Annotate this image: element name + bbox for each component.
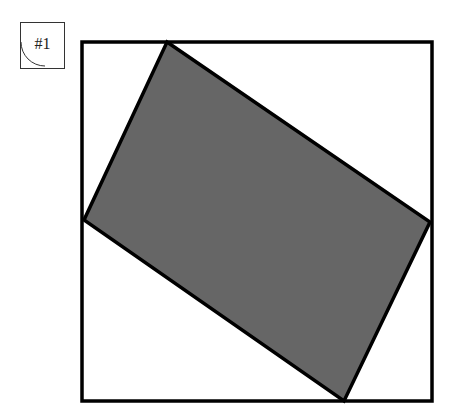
geometry-diagram: [0, 0, 456, 410]
tilted-rectangle: [84, 42, 430, 401]
